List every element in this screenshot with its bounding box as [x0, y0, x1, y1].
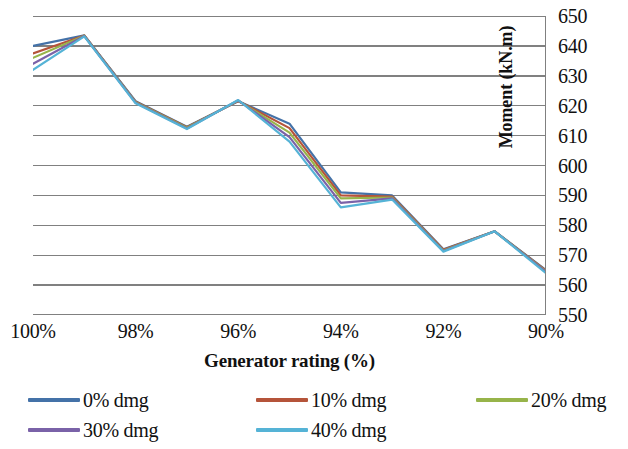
x-axis-tick-label: 100% — [0, 320, 78, 342]
legend-swatch-10-dmg — [256, 398, 308, 402]
y-axis-tick-label: 590 — [558, 185, 606, 205]
x-axis-title: Generator rating (%) — [33, 350, 546, 372]
x-axis-tick-labels: 100%98%96%94%92%90% — [0, 320, 628, 350]
legend-swatch-0-dmg — [28, 398, 80, 402]
x-axis-tick-label: 98% — [91, 320, 181, 342]
legend-label-40-dmg: 40% dmg — [311, 419, 386, 441]
legend-swatch-30-dmg — [28, 428, 80, 432]
legend-label-0-dmg: 0% dmg — [83, 389, 148, 411]
legend-item-40-dmg: 40% dmg — [256, 416, 386, 444]
legend-row-2: 30% dmg 40% dmg — [28, 416, 608, 444]
legend-label-10-dmg: 10% dmg — [311, 389, 386, 411]
y-axis-tick-label: 640 — [558, 36, 606, 56]
x-axis-tick-label: 92% — [398, 320, 488, 342]
y-axis-tick-label: 610 — [558, 126, 606, 146]
legend-swatch-40-dmg — [256, 428, 308, 432]
y-axis-tick-label: 560 — [558, 275, 606, 295]
plot-svg — [33, 16, 546, 315]
x-axis-tick-label: 94% — [296, 320, 386, 342]
x-axis-tick-label: 90% — [501, 320, 591, 342]
legend-item-30-dmg: 30% dmg — [28, 416, 158, 444]
legend-item-10-dmg: 10% dmg — [256, 386, 386, 414]
x-axis-tick-label: 96% — [193, 320, 283, 342]
y-axis-tick-label: 570 — [558, 245, 606, 265]
y-axis-title: Moment (kN.m) — [496, 0, 517, 187]
legend-label-20-dmg: 20% dmg — [531, 389, 606, 411]
plot-area — [33, 16, 546, 315]
y-axis-tick-labels: 650640630620610600590580570560550 — [546, 0, 608, 331]
legend-row-1: 0% dmg 10% dmg 20% dmg — [28, 386, 608, 414]
y-axis-tick-label: 600 — [558, 156, 606, 176]
series-line-40-dmg — [33, 36, 546, 273]
y-axis-tick-label: 650 — [558, 6, 606, 26]
chart-legend: 0% dmg 10% dmg 20% dmg 30% dmg 40% dmg — [28, 386, 608, 446]
chart-figure: 650640630620610600590580570560550 Moment… — [0, 0, 628, 449]
legend-item-0-dmg: 0% dmg — [28, 386, 148, 414]
gridlines — [33, 16, 546, 315]
legend-label-30-dmg: 30% dmg — [83, 419, 158, 441]
series-lines — [33, 35, 546, 273]
y-axis-tick-label: 620 — [558, 96, 606, 116]
legend-swatch-20-dmg — [476, 398, 528, 402]
y-axis-tick-label: 580 — [558, 215, 606, 235]
legend-item-20-dmg: 20% dmg — [476, 386, 606, 414]
y-axis-tick-label: 630 — [558, 66, 606, 86]
